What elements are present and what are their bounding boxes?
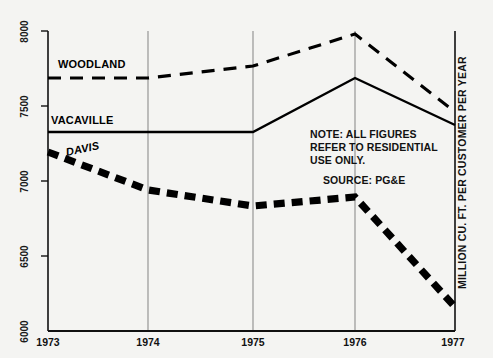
xtick-label-1977: 1977 <box>431 336 475 348</box>
xtick-label-1973: 1973 <box>26 336 70 348</box>
ytick-label-8000: 8000 <box>19 15 30 49</box>
xtick-label-1974: 1974 <box>126 336 170 348</box>
ytick-label-6500: 6500 <box>19 240 30 274</box>
xtick-label-1975: 1975 <box>231 336 275 348</box>
y-axis-title: MILLION CU. FT. PER CUSTOMER PER YEAR <box>456 59 468 289</box>
series-label-woodland: WOODLAND <box>58 58 126 70</box>
note-line-2: REFER TO RESIDENTIAL <box>310 141 438 154</box>
line-chart: 8000 7500 7000 6500 6000 1973 1974 1975 … <box>0 0 493 358</box>
chart-plot-area <box>0 0 493 358</box>
ytick-label-7500: 7500 <box>19 90 30 124</box>
ytick-label-7000: 7000 <box>19 165 30 199</box>
xtick-label-1976: 1976 <box>333 336 377 348</box>
series-label-vacaville: VACAVILLE <box>51 114 114 126</box>
note-line-3: USE ONLY. <box>310 154 438 167</box>
note-line-1: NOTE: ALL FIGURES <box>310 128 438 141</box>
series-line-woodland <box>48 34 455 112</box>
y-axis-spine <box>41 31 48 331</box>
source-annotation: SOURCE: PG&E <box>323 174 405 186</box>
note-annotation: NOTE: ALL FIGURES REFER TO RESIDENTIAL U… <box>310 128 438 168</box>
